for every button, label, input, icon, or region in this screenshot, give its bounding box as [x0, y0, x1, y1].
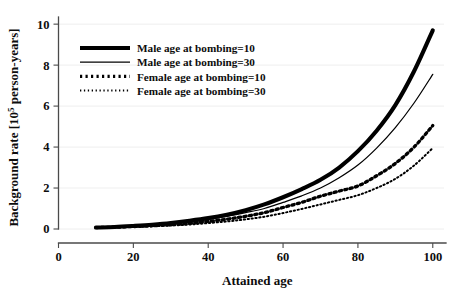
x-tick-label: 0 [55, 250, 61, 264]
y-tick-label: 0 [43, 222, 49, 236]
x-tick-label: 80 [352, 250, 365, 264]
y-axis-title: Background rate [105 person-years] [6, 28, 22, 226]
y-tick-label: 6 [43, 99, 49, 113]
x-tick-label: 60 [277, 250, 290, 264]
x-tick-label: 40 [202, 250, 215, 264]
x-tick-label: 20 [127, 250, 140, 264]
y-tick-label: 10 [37, 18, 50, 32]
y-axis-title-tail: person-years] [6, 28, 21, 107]
series-line-2 [96, 126, 433, 228]
y-tick-label: 8 [43, 59, 49, 73]
plot-gridlines [59, 24, 445, 229]
svg-text:Background rate [105 person-ye: Background rate [105 person-years] [6, 28, 22, 226]
y-axis-title-main: Background rate [10 [6, 112, 21, 227]
x-tick-label: 100 [423, 250, 442, 264]
legend-label-3: Female age at bombing=30 [137, 85, 266, 97]
y-tick-label: 2 [43, 181, 49, 195]
legend: Male age at bombing=10Male age at bombin… [80, 42, 266, 97]
x-axis-title: Attained age [222, 273, 293, 288]
legend-label-2: Female age at bombing=10 [137, 71, 266, 83]
y-tick-label: 4 [43, 140, 50, 154]
legend-label-0: Male age at bombing=10 [137, 42, 255, 54]
x-axis-ticks: 020406080100 [55, 243, 442, 264]
y-axis-ticks: 0246810 [37, 18, 59, 237]
background-rate-chart: 0246810 020406080100 Male age at bombing… [0, 0, 466, 295]
legend-label-1: Male age at bombing=30 [137, 56, 255, 68]
